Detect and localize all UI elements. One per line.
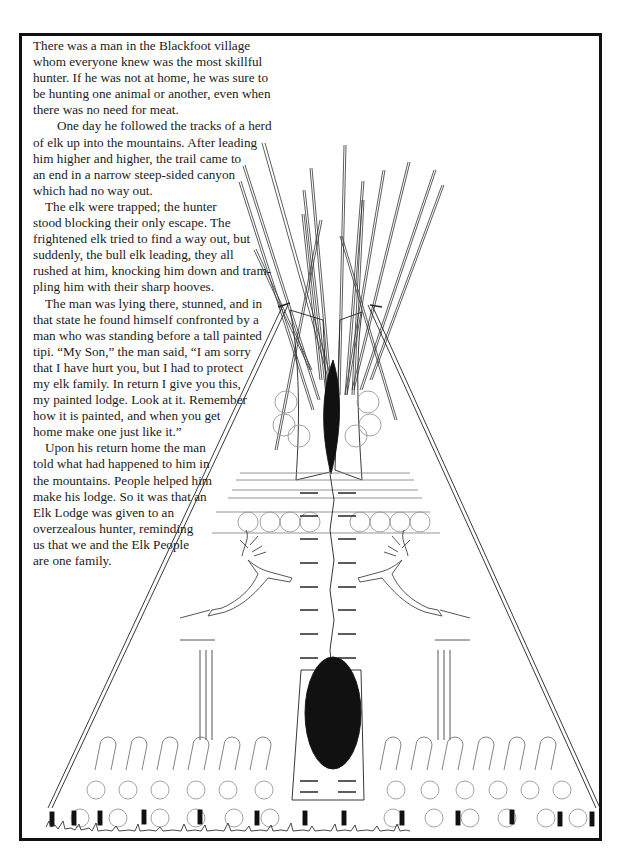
door bbox=[292, 657, 364, 800]
paragraph-4: The man was lying there, stunned, and in… bbox=[33, 296, 303, 441]
door-oval bbox=[305, 657, 361, 769]
lacing-seam bbox=[330, 474, 334, 680]
paragraph-3: The elk were trapped; the hunter stood b… bbox=[33, 199, 303, 296]
paragraph-1: There was a man in the Blackfoot village… bbox=[33, 38, 303, 118]
tent-stakes bbox=[50, 810, 594, 826]
paragraph-2: One day he followed the tracks of a herd… bbox=[33, 118, 303, 198]
story-text: There was a man in the Blackfoot village… bbox=[33, 38, 303, 569]
paragraph-5: Upon his return home the man told what h… bbox=[33, 440, 303, 569]
elk-right-icon bbox=[358, 530, 470, 740]
